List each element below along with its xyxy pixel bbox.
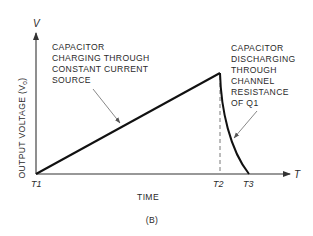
tick-t3: T3 bbox=[243, 179, 254, 189]
discharging-annotation-line: RESISTANCE bbox=[231, 87, 289, 97]
discharging-annotation-line: CAPACITOR bbox=[231, 43, 284, 53]
y-axis-variable: V bbox=[33, 18, 41, 29]
tick-t1: T1 bbox=[31, 179, 42, 189]
charging-leader-arrow bbox=[93, 89, 120, 123]
charging-ramp-curve bbox=[36, 73, 220, 174]
charging-annotation-line: CONSTANT CURRENT bbox=[52, 64, 149, 74]
charging-annotation: CAPACITOR CHARGING THROUGH CONSTANT CURR… bbox=[52, 42, 150, 123]
charging-annotation-line: SOURCE bbox=[52, 75, 91, 85]
x-axis-variable: T bbox=[294, 169, 301, 180]
y-axis-label: OUTPUT VOLTAGE (Vo) bbox=[17, 78, 28, 179]
discharging-annotation: CAPACITOR DISCHARGING THROUGH CHANNEL RE… bbox=[231, 43, 296, 138]
tick-t2: T2 bbox=[213, 179, 224, 189]
discharging-annotation-line: CHANNEL bbox=[231, 76, 275, 86]
discharging-annotation-line: DISCHARGING bbox=[231, 54, 296, 64]
discharging-leader-arrow bbox=[234, 111, 257, 138]
charging-annotation-line: CAPACITOR bbox=[52, 42, 105, 52]
sawtooth-voltage-diagram: V OUTPUT VOLTAGE (Vo) T T1 T2 T3 TIME (B… bbox=[0, 0, 313, 236]
figure-caption: (B) bbox=[146, 215, 159, 225]
x-axis-label: TIME bbox=[137, 192, 159, 202]
charging-annotation-line: CHARGING THROUGH bbox=[52, 53, 150, 63]
discharging-annotation-line: THROUGH bbox=[231, 65, 277, 75]
discharging-annotation-line: OF Q1 bbox=[231, 98, 259, 108]
